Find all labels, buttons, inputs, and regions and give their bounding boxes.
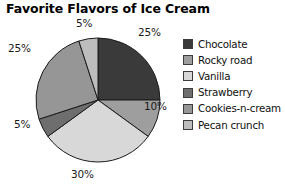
slice-value-pecan-crunch: 5% xyxy=(76,17,92,29)
legend-item-label: Strawberry xyxy=(198,87,252,98)
pie-slice-chocolate xyxy=(98,38,160,100)
legend-swatch-icon xyxy=(183,71,193,81)
pie-chart-figure: Favorite Flavors of Ice Cream 25% 10% 30… xyxy=(0,0,285,187)
slice-value-vanilla: 30% xyxy=(71,168,94,180)
legend-item-label: Pecan crunch xyxy=(198,120,264,131)
legend-swatch-icon xyxy=(183,55,193,65)
legend-item-label: Vanilla xyxy=(198,71,230,82)
legend-item-vanilla[interactable]: Vanilla xyxy=(183,68,283,84)
legend-swatch-icon xyxy=(183,120,193,130)
legend-item-pecan-crunch[interactable]: Pecan crunch xyxy=(183,117,283,133)
legend-swatch-icon xyxy=(183,88,193,98)
legend-item-label: Cookies-n-cream xyxy=(198,103,281,114)
legend-item-rocky-road[interactable]: Rocky road xyxy=(183,52,283,68)
slice-value-strawberry: 5% xyxy=(14,118,30,130)
pie-plot-area: 25% 10% 30% 5% 25% 5% xyxy=(0,14,190,187)
slice-value-chocolate: 25% xyxy=(138,26,161,38)
legend-swatch-icon xyxy=(183,104,193,114)
legend-item-strawberry[interactable]: Strawberry xyxy=(183,85,283,101)
legend-item-label: Chocolate xyxy=(198,39,247,50)
slice-value-cookies-n-cream: 25% xyxy=(8,42,31,54)
legend-item-cookies-n-cream[interactable]: Cookies-n-cream xyxy=(183,101,283,117)
pie-slice-group xyxy=(36,38,160,162)
legend: ChocolateRocky roadVanillaStrawberryCook… xyxy=(183,36,283,133)
slice-value-rocky-road: 10% xyxy=(144,100,167,112)
legend-item-chocolate[interactable]: Chocolate xyxy=(183,36,283,52)
legend-item-label: Rocky road xyxy=(198,55,252,66)
legend-swatch-icon xyxy=(183,39,193,49)
